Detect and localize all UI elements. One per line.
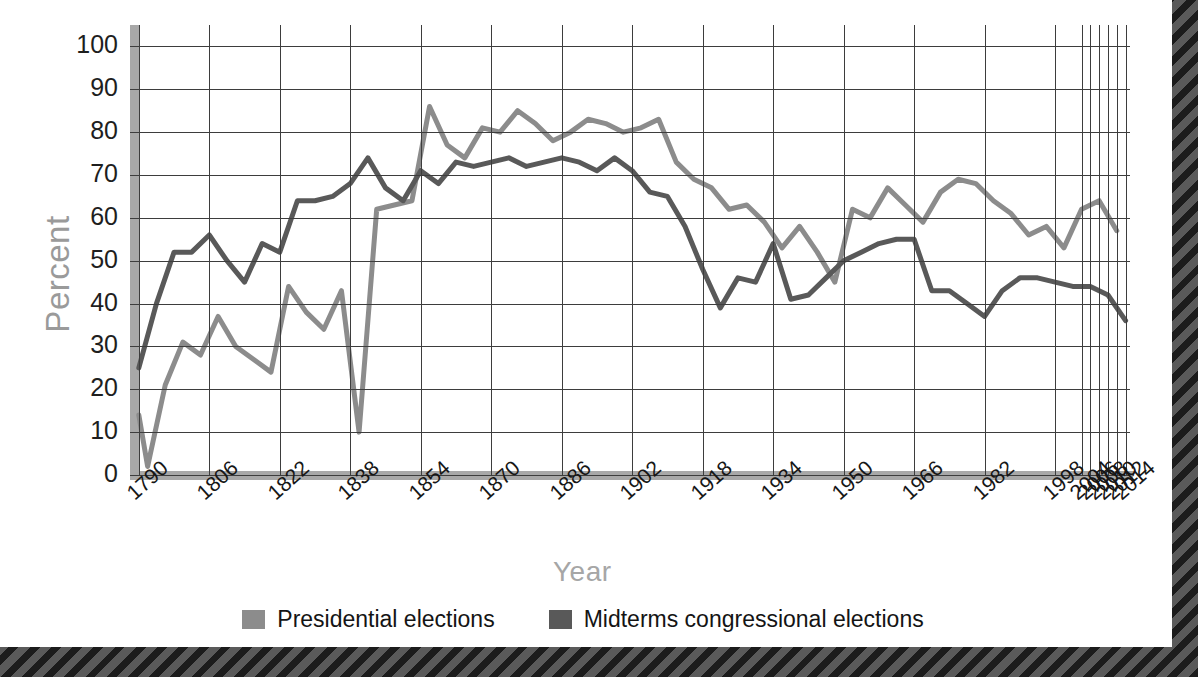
legend-item[interactable]: Midterms congressional elections xyxy=(549,606,924,633)
y-tick-label: 90 xyxy=(52,73,118,102)
legend-swatch-icon xyxy=(242,610,265,629)
gridline-vertical xyxy=(703,25,704,475)
y-tick-label: 100 xyxy=(52,30,118,59)
y-tick-label: 30 xyxy=(52,330,118,359)
gridline-vertical xyxy=(844,25,845,475)
y-tick-label: 20 xyxy=(52,373,118,402)
legend-label: Midterms congressional elections xyxy=(584,606,924,633)
plot-area xyxy=(130,25,1130,475)
gridline-vertical xyxy=(773,25,774,475)
series-line-presidential xyxy=(139,106,1117,466)
gridline-vertical xyxy=(632,25,633,475)
chart-figure: Percent Year 0102030405060708090100 1790… xyxy=(0,0,1198,677)
gridline-vertical xyxy=(914,25,915,475)
gridline-vertical xyxy=(280,25,281,475)
y-tick-label: 70 xyxy=(52,159,118,188)
gridline-vertical xyxy=(1126,25,1127,475)
gridline-vertical xyxy=(209,25,210,475)
gridline-vertical xyxy=(1117,25,1118,475)
gridline-vertical xyxy=(350,25,351,475)
y-tick-label: 40 xyxy=(52,288,118,317)
gridline-vertical xyxy=(562,25,563,475)
legend-swatch-icon xyxy=(549,610,572,629)
x-axis-title: Year xyxy=(553,556,612,588)
legend-item[interactable]: Presidential elections xyxy=(242,606,494,633)
gridline-vertical xyxy=(421,25,422,475)
y-tick-label: 80 xyxy=(52,116,118,145)
gridline-vertical xyxy=(1108,25,1109,475)
y-tick-label: 10 xyxy=(52,416,118,445)
gridline-vertical xyxy=(1055,25,1056,475)
hatched-border-right xyxy=(1172,0,1198,677)
gridline-vertical xyxy=(491,25,492,475)
gridline-vertical xyxy=(1099,25,1100,475)
gridline-vertical xyxy=(1082,25,1083,475)
gridline-vertical xyxy=(139,25,140,475)
y-tick-label: 60 xyxy=(52,202,118,231)
hatched-border-bottom xyxy=(0,647,1198,677)
y-tick-label: 0 xyxy=(52,459,118,488)
gridline-vertical xyxy=(1090,25,1091,475)
chart-legend: Presidential electionsMidterms congressi… xyxy=(0,606,1166,633)
legend-label: Presidential elections xyxy=(277,606,494,633)
y-tick-label: 50 xyxy=(52,245,118,274)
gridline-vertical xyxy=(985,25,986,475)
